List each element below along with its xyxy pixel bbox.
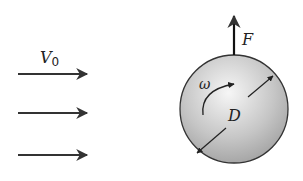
diagram-canvas: V0 F ω D [0, 0, 303, 181]
velocity-subscript: 0 [52, 55, 60, 69]
force-label: F [242, 32, 253, 48]
omega-label: ω [199, 77, 210, 91]
velocity-symbol: V [40, 48, 52, 67]
diagram-svg [0, 0, 303, 181]
flow-arrows [18, 74, 87, 155]
diameter-label: D [228, 108, 241, 124]
velocity-label: V0 [40, 50, 59, 66]
